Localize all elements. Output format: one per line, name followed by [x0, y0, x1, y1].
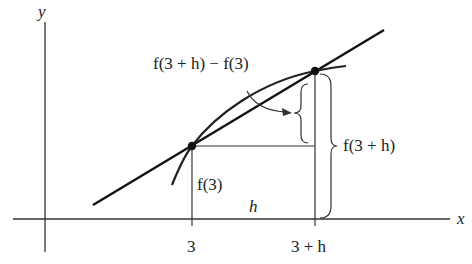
h-label: h — [249, 198, 258, 215]
point-p — [188, 142, 196, 150]
arrowhead-icon — [282, 108, 292, 116]
f3h-label: f(3 + h) — [343, 137, 395, 154]
tick-label-3-plus-h: 3 + h — [291, 238, 326, 255]
diagram-canvas — [0, 0, 472, 264]
function-curve — [172, 66, 346, 185]
tick-label-3: 3 — [187, 238, 196, 255]
secant-line-diagram: y x 3 3 + h f(3 + h) − f(3) f(3 + h) f(3… — [0, 0, 472, 264]
x-axis-label: x — [457, 210, 465, 227]
y-axis-label: y — [38, 3, 46, 20]
point-q — [311, 67, 319, 75]
f3-label: f(3) — [197, 176, 222, 193]
f3h-brace — [320, 74, 337, 218]
difference-label: f(3 + h) − f(3) — [153, 55, 249, 72]
difference-brace — [294, 84, 308, 143]
